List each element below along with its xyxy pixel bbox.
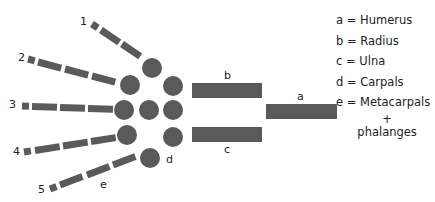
digit-label-2: 2 — [18, 51, 25, 64]
label-d: d — [166, 153, 173, 166]
digit-label-3: 3 — [9, 98, 16, 111]
digit-4 — [23, 134, 116, 155]
label-c: c — [224, 143, 230, 156]
humerus-bone — [266, 104, 337, 119]
legend-item-metacarpals: e = Metacarpals — [336, 92, 430, 113]
digit-label-1: 1 — [80, 15, 87, 28]
digit-1 — [90, 21, 142, 59]
legend-plus: + — [336, 113, 430, 126]
digit-3 — [22, 103, 113, 113]
legend-item-carpals: d = Carpals — [336, 72, 430, 93]
radius-bone — [192, 83, 262, 98]
legend: a = Humerus b = Radius c = Ulna d = Carp… — [336, 10, 430, 139]
label-a: a — [297, 90, 304, 103]
label-b: b — [224, 69, 231, 82]
carpals — [114, 58, 183, 168]
legend-item-ulna: c = Ulna — [336, 51, 430, 72]
label-e: e — [100, 178, 107, 191]
legend-phalanges: phalanges — [336, 126, 430, 139]
digit-label-4: 4 — [13, 145, 20, 158]
legend-item-radius: b = Radius — [336, 31, 430, 52]
legend-item-humerus: a = Humerus — [336, 10, 430, 31]
ulna-bone — [192, 127, 262, 142]
digit-5 — [49, 153, 137, 192]
digit-label-5: 5 — [38, 183, 45, 196]
digit-2 — [27, 56, 116, 86]
